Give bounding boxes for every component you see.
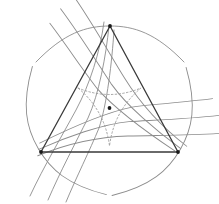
center-dot (108, 106, 112, 110)
geometric-figure-canvas (0, 0, 219, 204)
curve-branch-outer (30, 22, 104, 196)
curve-family-group (26, 0, 219, 204)
vertex-dot-bottom-right (176, 150, 180, 154)
curve-family-3 (33, 57, 219, 204)
tangent-arc-left (1, 66, 106, 204)
curve-branch-middle (30, 9, 211, 149)
curve-branch-middle (39, 62, 219, 202)
figure-svg (0, 0, 219, 204)
vertex-dot-apex (108, 24, 112, 28)
vertex-dot-bottom-left (39, 150, 43, 154)
curve-family-1 (30, 22, 114, 202)
curve-branch-outer (38, 69, 219, 204)
curve-family-2 (26, 0, 219, 155)
tangent-arc-apex (36, 26, 184, 62)
curve-branch-outer (36, 0, 219, 146)
vertex-dot-group (39, 24, 180, 154)
curve-branch-inner (40, 57, 213, 185)
